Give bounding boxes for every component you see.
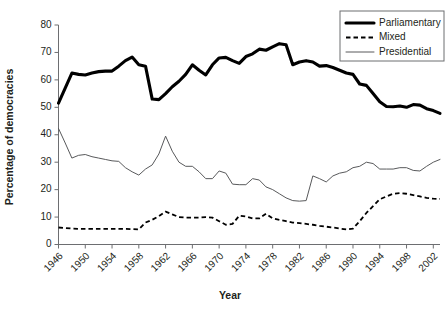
y-axis-tick-label: 20	[40, 183, 52, 194]
x-axis-tick-label: 1994	[363, 250, 387, 274]
x-axis-tick-label: 1958	[122, 250, 146, 274]
x-axis-tick-label: 1998	[389, 250, 413, 274]
x-axis-tick-label: 1986	[309, 250, 333, 274]
x-axis-tick-label: 1970	[202, 250, 226, 274]
x-axis-tick-label: 1950	[68, 250, 92, 274]
x-axis-tick-label: 1954	[95, 250, 119, 274]
x-axis-tick-label: 1990	[336, 250, 360, 274]
x-axis-title: Year	[219, 289, 241, 301]
y-axis-tick-label: 70	[40, 46, 52, 57]
y-axis-tick-label: 0	[46, 238, 52, 249]
x-axis-tick-label: 1962	[148, 250, 172, 274]
legend-label-presidential: Presidential	[379, 46, 431, 57]
y-axis: 01020304050607080	[40, 19, 58, 250]
y-axis-tick-label: 10	[40, 211, 52, 222]
x-axis-tick-label: 1978	[256, 250, 280, 274]
series-layer	[59, 44, 441, 230]
x-axis: 1946195019541958196219661970197419781982…	[41, 245, 440, 274]
y-axis-tick-label: 40	[40, 128, 52, 139]
y-axis-tick-label: 60	[40, 74, 52, 85]
legend-label-mixed: Mixed	[379, 31, 406, 42]
y-axis-tick-label: 50	[40, 101, 52, 112]
y-axis-tick-label: 80	[40, 19, 52, 30]
x-axis-tick-label: 1966	[175, 250, 199, 274]
series-line-presidential	[59, 128, 441, 201]
x-axis-tick-label: 1974	[229, 250, 253, 274]
line-chart: Percentage of democracies Year 010203040…	[0, 0, 448, 309]
y-axis-tick-label: 30	[40, 156, 52, 167]
series-line-mixed	[59, 193, 441, 229]
x-axis-tick-label: 1982	[282, 250, 306, 274]
x-axis-tick-label: 1946	[41, 250, 65, 274]
x-axis-tick-label: 2002	[416, 250, 440, 274]
y-axis-title: Percentage of democracies	[3, 69, 15, 206]
chart-container: Percentage of democracies Year 010203040…	[0, 0, 448, 309]
chart-legend: ParliamentaryMixedPresidential	[340, 11, 444, 61]
legend-label-parliamentary: Parliamentary	[379, 17, 441, 28]
